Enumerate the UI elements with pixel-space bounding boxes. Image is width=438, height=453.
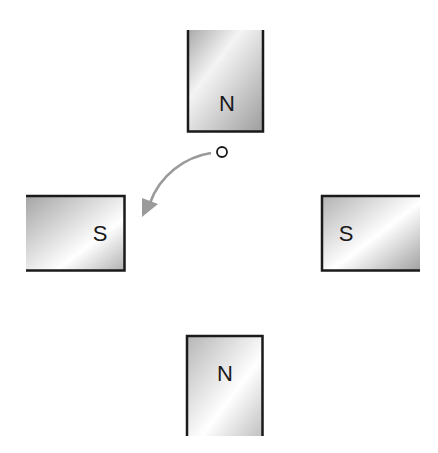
magnet-top-north: N	[187, 30, 264, 132]
center-particle-icon	[217, 147, 227, 157]
pole-label-left: S	[93, 221, 108, 246]
diagram-canvas: N S S N	[0, 0, 438, 453]
pole-label-top: N	[219, 91, 235, 116]
magnet-bottom-north: N	[186, 335, 263, 436]
magnet-left-south: S	[26, 195, 125, 271]
pole-label-right: S	[339, 221, 354, 246]
curved-arrow-icon	[142, 153, 211, 217]
quadrupole-magnet-diagram: N S S N	[0, 0, 438, 453]
magnet-right-south: S	[321, 195, 420, 271]
pole-label-bottom: N	[217, 361, 233, 386]
